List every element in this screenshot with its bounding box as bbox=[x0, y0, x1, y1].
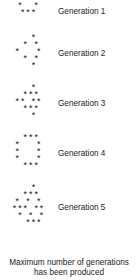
status-message-line-2: has been produced bbox=[0, 268, 138, 278]
generation-label-1: Generation 1 bbox=[56, 7, 138, 16]
grid-row: *** bbox=[14, 221, 41, 228]
grid-row: * bbox=[20, 114, 36, 121]
generation-label-4: Generation 4 bbox=[56, 149, 138, 158]
generation-grid-4: *** * * * * * * *** bbox=[0, 136, 56, 171]
generation-grid-2: * * * * * * * * bbox=[0, 36, 56, 71]
generation-block-3: * *** ** ** *** * Generation 3 bbox=[0, 86, 138, 121]
grid-row: * bbox=[20, 64, 36, 71]
generation-grid-3: * *** ** ** *** * bbox=[0, 86, 56, 121]
grid-row: *** bbox=[17, 164, 39, 171]
grid-row: *** bbox=[20, 11, 36, 18]
generation-label-2: Generation 2 bbox=[56, 49, 138, 58]
generation-block-5: * *** * * * *** ** * * * *** Generation … bbox=[0, 186, 138, 228]
generation-label-5: Generation 5 bbox=[56, 203, 138, 212]
generation-block-4: *** * * * * * * *** Generation 4 bbox=[0, 136, 138, 171]
generation-block-1: * * *** Generation 1 bbox=[0, 4, 138, 18]
generation-grid-1: * * *** bbox=[0, 4, 56, 18]
pattern-listing-sheet: * * *** Generation 1 * * * * * * * * Gen… bbox=[0, 0, 138, 280]
generation-block-2: * * * * * * * * Generation 2 bbox=[0, 36, 138, 71]
generation-grid-5: * *** * * * *** ** * * * *** bbox=[0, 186, 56, 228]
status-message-line-1: Maximum number of generations bbox=[0, 258, 138, 268]
status-message: Maximum number of generations has been p… bbox=[0, 258, 138, 277]
generation-label-3: Generation 3 bbox=[56, 99, 138, 108]
